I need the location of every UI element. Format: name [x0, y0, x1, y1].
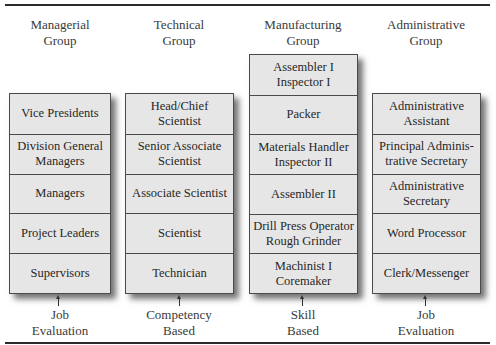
basis-line: Based: [125, 323, 233, 339]
manufacturing-group-title: Manufacturing Group: [249, 17, 357, 49]
title-line: Technical: [125, 17, 233, 33]
administrative-ladder: AdministrativeAssistant Principal Admini…: [372, 93, 481, 294]
ladder-row: Project Leaders: [10, 213, 110, 253]
row-text: Machinist I: [275, 259, 332, 274]
ladder-row: Associate Scientist: [126, 174, 233, 214]
ladder-row: Word Processor: [373, 213, 480, 253]
row-text: Inspector I: [273, 75, 334, 90]
ladder-row: Principal Adminis-trative Secretary: [373, 134, 480, 174]
row-text: Coremaker: [275, 274, 332, 289]
row-text: Scientist: [138, 154, 222, 169]
row-text: Assistant: [389, 114, 464, 129]
top-rule: [5, 4, 490, 6]
title-line: Manufacturing: [249, 17, 357, 33]
up-arrow-icon: [58, 298, 59, 306]
row-text: Technician: [152, 266, 207, 281]
technical-basis-label: Competency Based: [125, 307, 233, 339]
row-text: Administrative: [389, 99, 464, 114]
row-text: Clerk/Messenger: [384, 266, 469, 281]
row-text: Materials Handler: [258, 140, 349, 155]
up-arrow-icon: [302, 298, 303, 306]
ladder-row: Materials HandlerInspector II: [250, 134, 357, 174]
ladder-row: Scientist: [126, 213, 233, 253]
ladder-row: Supervisors: [10, 253, 110, 293]
row-text: Scientist: [158, 226, 201, 241]
title-line: Group: [8, 33, 112, 49]
basis-line: Based: [249, 323, 357, 339]
bottom-rule: [5, 342, 490, 344]
ladder-row: Machinist ICoremaker: [250, 253, 357, 293]
ladder-row: Assembler IInspector I: [250, 55, 357, 95]
row-text: Project Leaders: [21, 226, 99, 241]
ladder-row: AdministrativeSecretary: [373, 174, 480, 214]
title-line: Managerial: [8, 17, 112, 33]
basis-line: Evaluation: [8, 323, 112, 339]
ladder-row: Clerk/Messenger: [373, 253, 480, 293]
administrative-basis-label: Job Evaluation: [372, 307, 480, 339]
row-text: Assembler II: [271, 187, 336, 202]
ladder-row: Head/ChiefScientist: [126, 94, 233, 134]
row-text: trative Secretary: [379, 154, 474, 169]
ladder-row: Division GeneralManagers: [10, 134, 110, 174]
row-text: Head/Chief: [151, 99, 209, 114]
row-text: Principal Adminis-: [379, 139, 474, 154]
managerial-group-title: Managerial Group: [8, 17, 112, 49]
ladder-row: Drill Press OperatorRough Grinder: [250, 214, 357, 254]
ladder-row: AdministrativeAssistant: [373, 94, 480, 134]
basis-line: Competency: [125, 307, 233, 323]
row-text: Senior Associate: [138, 139, 222, 154]
technical-ladder: Head/ChiefScientist Senior AssociateScie…: [125, 93, 234, 294]
basis-line: Skill: [249, 307, 357, 323]
row-text: Division General: [17, 139, 103, 154]
row-text: Administrative: [389, 179, 464, 194]
up-arrow-icon: [425, 298, 426, 306]
basis-line: Job: [372, 307, 480, 323]
row-text: Rough Grinder: [253, 234, 354, 249]
ladder-row: Vice Presidents: [10, 94, 110, 134]
managerial-basis-label: Job Evaluation: [8, 307, 112, 339]
row-text: Scientist: [151, 114, 209, 129]
row-text: Assembler I: [273, 60, 334, 75]
ladder-row: Packer: [250, 95, 357, 135]
row-text: Supervisors: [30, 266, 89, 281]
basis-line: Evaluation: [372, 323, 480, 339]
row-text: Drill Press Operator: [253, 219, 354, 234]
ladder-row: Technician: [126, 253, 233, 293]
row-text: Word Processor: [387, 226, 466, 241]
row-text: Packer: [286, 107, 320, 122]
row-text: Inspector II: [258, 155, 349, 170]
row-text: Associate Scientist: [132, 186, 227, 201]
row-text: Managers: [35, 186, 84, 201]
ladder-row: Managers: [10, 174, 110, 214]
title-line: Group: [372, 33, 480, 49]
administrative-group-title: Administrative Group: [372, 17, 480, 49]
row-text: Managers: [17, 154, 103, 169]
technical-group-title: Technical Group: [125, 17, 233, 49]
up-arrow-icon: [179, 298, 180, 306]
managerial-ladder: Vice Presidents Division GeneralManagers…: [9, 93, 111, 294]
title-line: Administrative: [372, 17, 480, 33]
title-line: Group: [125, 33, 233, 49]
row-text: Vice Presidents: [21, 106, 98, 121]
title-line: Group: [249, 33, 357, 49]
basis-line: Job: [8, 307, 112, 323]
manufacturing-basis-label: Skill Based: [249, 307, 357, 339]
ladder-row: Assembler II: [250, 174, 357, 214]
row-text: Secretary: [389, 194, 464, 209]
ladder-row: Senior AssociateScientist: [126, 134, 233, 174]
manufacturing-ladder: Assembler IInspector I Packer Materials …: [249, 54, 358, 294]
